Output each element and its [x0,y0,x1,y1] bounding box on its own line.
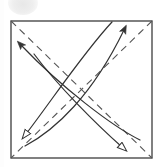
origami-fold-diagram [0,0,165,167]
figure-root [0,0,165,167]
